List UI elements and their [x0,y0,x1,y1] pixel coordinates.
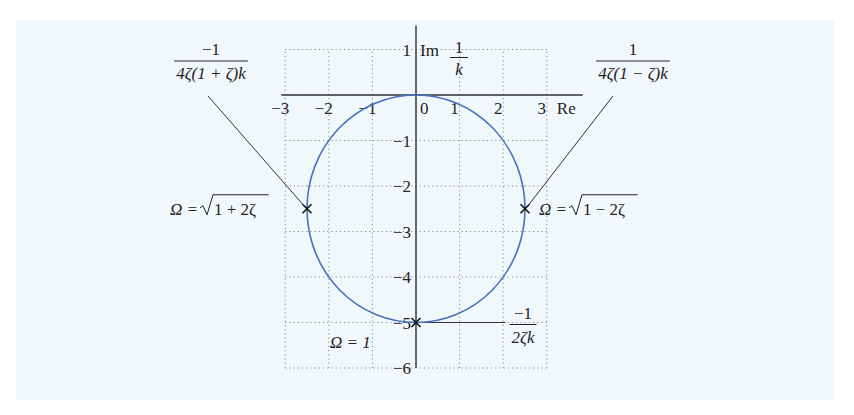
x-tick-label: −2 [315,99,333,118]
right-fraction: 14ζ(1 − ζ)k [596,40,670,83]
right-fraction-numerator: 1 [629,40,638,59]
y-tick-label: −4 [393,268,412,287]
label-omega-sqrt-1-plus-2zeta-prefix: Ω = [170,200,198,219]
y-tick-label: −2 [393,177,411,196]
axes [281,26,583,369]
x-tick-label: −3 [271,99,289,118]
label-omega-1: Ω = 1 [330,333,371,352]
y-axis-label-prefix: Im [420,41,439,60]
left-fraction: −14ζ(1 + ζ)k [174,40,248,83]
nyquist-plot: −3−2−10123Re1−1−2−3−4−5−6Im1k Ω = 1 + 2ζ… [0,0,854,415]
bottom-fraction-numerator: −1 [514,304,532,323]
label-omega-sqrt-1-plus-2zeta-radicand: 1 + 2ζ [214,200,256,219]
leader-line-left [208,96,304,206]
label-omega-sqrt-1-minus-2zeta-radicand: 1 − 2ζ [583,200,625,219]
label-omega-sqrt-1-minus-2zeta: Ω = 1 − 2ζ [539,195,638,219]
bottom-fraction-denominator: 2ζk [512,328,535,347]
label-omega-sqrt-1-plus-2zeta: Ω = 1 + 2ζ [170,195,269,219]
y-axis-label-num: 1 [455,38,464,57]
annotations: Ω = 1 + 2ζΩ = 1 − 2ζΩ = 1−14ζ(1 + ζ)k14ζ… [170,40,670,352]
left-fraction-numerator: −1 [202,40,220,59]
x-tick-label: 3 [538,99,547,118]
right-fraction-denominator: 4ζ(1 − ζ)k [598,64,668,83]
bottom-fraction: −12ζk [510,304,537,347]
y-tick-label: −1 [393,132,411,151]
y-tick-label: −6 [393,359,411,378]
y-tick-label: −3 [393,223,411,242]
x-axis-label: Re [557,99,576,118]
x-tick-label: −1 [358,99,376,118]
y-tick-label: 1 [403,41,412,60]
x-tick-label: 0 [420,99,429,118]
y-axis-label-den: k [455,60,463,79]
left-fraction-denominator: 4ζ(1 + ζ)k [176,64,246,83]
x-tick-label: 2 [494,99,503,118]
label-omega-sqrt-1-minus-2zeta-prefix: Ω = [539,200,567,219]
